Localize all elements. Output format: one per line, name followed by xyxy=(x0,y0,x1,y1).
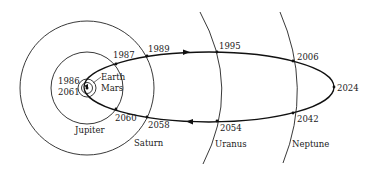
uranus-out-dot xyxy=(216,51,219,54)
arrow-right-icon xyxy=(183,50,190,56)
label-jupiter: Jupiter xyxy=(74,125,105,135)
label-neptune: Neptune xyxy=(292,139,329,149)
label-1986: 1986 xyxy=(58,76,80,86)
label-2042: 2042 xyxy=(297,114,319,124)
label-2061: 2061 xyxy=(58,87,80,97)
label-mars: Mars xyxy=(101,83,123,93)
arrow-left-icon xyxy=(186,119,193,125)
label-1987: 1987 xyxy=(113,50,135,60)
label-1995: 1995 xyxy=(219,41,241,51)
label-earth: Earth xyxy=(101,72,126,82)
saturn-in-dot xyxy=(146,116,149,119)
label-2024: 2024 xyxy=(337,83,359,93)
saturn-out-dot xyxy=(146,55,149,58)
label-2006: 2006 xyxy=(297,52,319,62)
label-2060: 2060 xyxy=(115,113,137,123)
aphelion-dot xyxy=(333,86,336,89)
jupiter-out-dot xyxy=(115,63,118,66)
uranus-in-dot xyxy=(216,120,219,123)
earth-leader-line xyxy=(93,77,101,83)
jupiter-in-dot xyxy=(115,108,118,111)
comet-orbit-diagram: 1986 2061 1987 1989 1995 2006 2024 2042 … xyxy=(0,0,374,177)
label-2058: 2058 xyxy=(148,120,170,130)
label-1989: 1989 xyxy=(148,44,170,54)
label-saturn: Saturn xyxy=(134,138,164,148)
neptune-out-dot xyxy=(292,60,295,63)
label-uranus: Uranus xyxy=(215,139,247,149)
label-2054: 2054 xyxy=(220,123,242,133)
neptune-in-dot xyxy=(292,112,295,115)
